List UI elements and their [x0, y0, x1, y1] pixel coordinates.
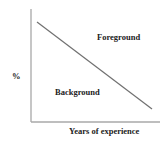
- region-label-foreground: Foreground: [97, 32, 140, 42]
- region-label-background: Background: [55, 87, 100, 97]
- diagram-canvas: % Foreground Background Years of experie…: [0, 0, 167, 146]
- x-axis-label: Years of experience: [69, 126, 140, 136]
- y-axis-label: %: [12, 71, 21, 81]
